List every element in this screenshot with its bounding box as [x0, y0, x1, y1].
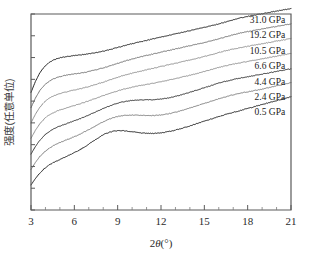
curve-label-6-6-gpa: 6.6 GPa — [255, 61, 286, 71]
curve-label-4-4-gpa: 4.4 GPa — [255, 77, 286, 87]
curve-labels-layer: 31.0 GPa19.2 GPa10.5 GPa6.6 GPa4.4 GPa2.… — [250, 15, 286, 117]
curve-label-10-5-gpa: 10.5 GPa — [250, 46, 286, 56]
x-tick-label: 9 — [115, 215, 121, 227]
plot-frame — [31, 14, 291, 210]
curve-label-0-5-gpa: 0.5 GPa — [255, 107, 286, 117]
curve-0-5-gpa — [31, 97, 291, 185]
curve-label-31-0-gpa: 31.0 GPa — [250, 15, 286, 25]
axis-frame-layer — [31, 14, 291, 210]
y-axis-title: 强度(任意单位) — [3, 79, 15, 146]
x-tick-label: 12 — [156, 215, 167, 227]
x-tick-label: 6 — [72, 215, 78, 227]
x-tick-label: 3 — [28, 215, 34, 227]
curve-label-19-2-gpa: 19.2 GPa — [250, 30, 286, 40]
chart-canvas: 36912151821 31.0 GPa19.2 GPa10.5 GPa6.6 … — [0, 0, 311, 256]
curve-label-2-4-gpa: 2.4 GPa — [255, 92, 286, 102]
x-tick-label: 18 — [242, 215, 254, 227]
x-tick-labels: 36912151821 — [28, 215, 296, 227]
axis-ticks-layer — [31, 14, 291, 210]
x-tick-label: 15 — [199, 215, 211, 227]
x-axis-title: 2θ(°) — [150, 237, 173, 250]
curve-2-4-gpa — [31, 83, 291, 170]
x-tick-label: 21 — [286, 215, 297, 227]
xrd-chart-figure: 36912151821 31.0 GPa19.2 GPa10.5 GPa6.6 … — [0, 0, 311, 256]
